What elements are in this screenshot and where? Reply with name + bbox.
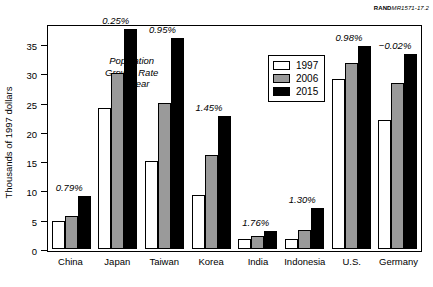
y-tick-label: 10	[26, 187, 37, 198]
y-tick-label: 20	[26, 128, 37, 139]
y-tick-label: 5	[32, 216, 37, 227]
bar-korea-2015[interactable]	[218, 116, 231, 249]
x-label-taiwan: Taiwan	[141, 256, 188, 267]
bar-group: 0.25%	[95, 26, 142, 251]
bar-group: 0.95%	[141, 26, 188, 251]
bar-germany-1997[interactable]	[378, 120, 391, 249]
bar-taiwan-2006[interactable]	[158, 103, 171, 249]
bar-japan-2015[interactable]	[124, 29, 137, 249]
growth-rate-annotation: 0.79%	[56, 182, 83, 193]
bar-china-1997[interactable]	[52, 221, 65, 249]
x-label-us: U.S.	[328, 256, 375, 267]
growth-rate-annotation: 1.76%	[242, 217, 269, 228]
bar-indonesia-1997[interactable]	[285, 239, 298, 249]
bar-us-2006[interactable]	[345, 63, 358, 249]
bar-germany-2015[interactable]	[404, 54, 417, 249]
x-label-japan: Japan	[94, 256, 141, 267]
plot-area: Population Growth Rate per Year 1997 200…	[47, 25, 422, 252]
y-tick-label: 15	[26, 158, 37, 169]
x-label-indonesia: Indonesia	[281, 256, 328, 267]
bar-groups: 0.79%0.25%0.95%1.45%1.76%1.30%0.98%−0.02…	[48, 26, 421, 251]
source-label-italic: MR1571-17.2	[392, 5, 429, 11]
bar-group: 0.98%	[328, 26, 375, 251]
bar-india-2015[interactable]	[264, 231, 277, 249]
growth-rate-annotation: −0.02%	[379, 40, 412, 51]
bar-group: 1.45%	[188, 26, 235, 251]
source-label-bold: RAND	[374, 5, 392, 11]
x-label-korea: Korea	[188, 256, 235, 267]
bar-indonesia-2015[interactable]	[311, 208, 324, 249]
bar-taiwan-2015[interactable]	[171, 38, 184, 249]
y-tick-label: 35	[26, 41, 37, 52]
bar-indonesia-2006[interactable]	[298, 230, 311, 249]
bar-india-1997[interactable]	[238, 239, 251, 249]
bar-china-2006[interactable]	[65, 216, 78, 249]
growth-rate-annotation: 0.98%	[335, 32, 362, 43]
growth-rate-annotation: 1.30%	[289, 194, 316, 205]
growth-rate-annotation: 0.95%	[149, 24, 176, 35]
bar-taiwan-1997[interactable]	[145, 161, 158, 249]
bar-china-2015[interactable]	[78, 196, 91, 249]
y-axis-title: Thousands of 1997 dollars	[2, 30, 16, 255]
y-tick-label: 0	[32, 246, 37, 257]
bar-us-1997[interactable]	[332, 79, 345, 249]
bar-korea-1997[interactable]	[192, 195, 205, 249]
growth-rate-annotation: 0.25%	[102, 15, 129, 26]
bar-group: 1.30%	[281, 26, 328, 251]
x-label-china: China	[47, 256, 94, 267]
bar-india-2006[interactable]	[251, 236, 264, 249]
growth-rate-annotation: 1.45%	[196, 102, 223, 113]
bar-japan-1997[interactable]	[98, 108, 111, 249]
x-label-germany: Germany	[375, 256, 422, 267]
y-tick-label: 30	[26, 70, 37, 81]
bar-korea-2006[interactable]	[205, 155, 218, 249]
bar-japan-2006[interactable]	[111, 73, 124, 249]
bar-group: 1.76%	[235, 26, 282, 251]
bar-us-2015[interactable]	[358, 46, 371, 249]
y-tick-label: 25	[26, 99, 37, 110]
x-axis-labels: ChinaJapanTaiwanKoreaIndiaIndonesiaU.S.G…	[47, 256, 422, 267]
bar-group: −0.02%	[374, 26, 421, 251]
source-label: RANDMR1571-17.2	[374, 5, 429, 11]
bar-germany-2006[interactable]	[391, 83, 404, 249]
bar-group: 0.79%	[48, 26, 95, 251]
x-label-india: India	[235, 256, 282, 267]
